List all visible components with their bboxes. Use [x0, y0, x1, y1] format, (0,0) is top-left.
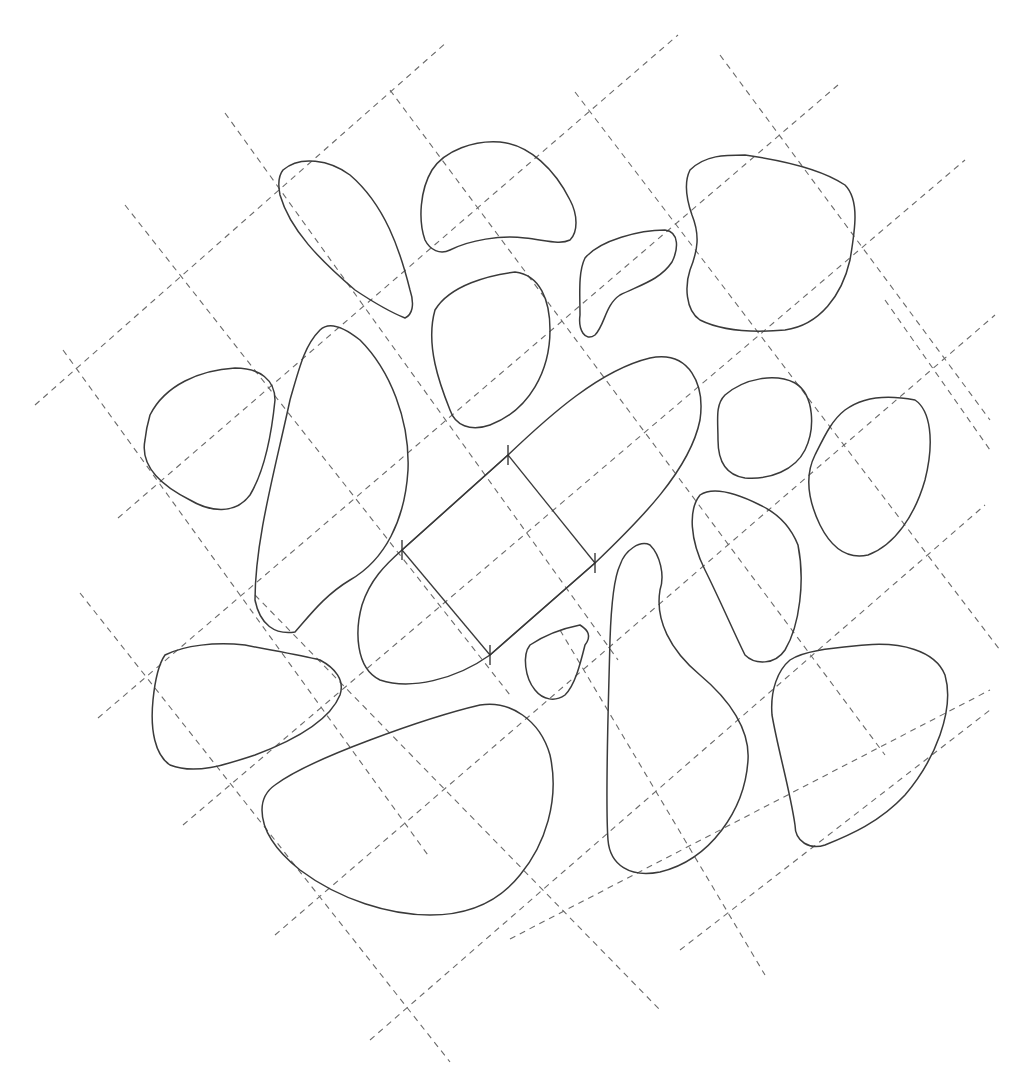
dashed-grid-diagonal-down — [63, 55, 1000, 1062]
grid-line — [510, 690, 990, 939]
dashed-grid-diagonal-up — [35, 35, 995, 1040]
grid-line — [98, 85, 838, 718]
grid-line — [370, 505, 985, 1040]
grid-line — [390, 90, 885, 755]
blob-bottom-right — [772, 644, 948, 846]
blob-small-circle — [718, 378, 812, 478]
outline-shapes — [144, 142, 947, 915]
grid-line — [255, 595, 660, 1010]
rectangle-edge — [402, 550, 490, 655]
blob-bottom-large — [262, 704, 553, 915]
grid-line — [720, 55, 990, 420]
blob-center-capsule — [358, 357, 701, 684]
blob-right-oval — [809, 397, 930, 556]
blob-top-left-leaf — [279, 161, 412, 318]
blob-tall-drop — [607, 544, 748, 874]
grid-line — [575, 92, 1000, 650]
blob-kidney — [580, 230, 677, 337]
grid-line — [118, 35, 678, 518]
grid-line — [225, 113, 618, 660]
diagram-canvas — [0, 0, 1035, 1077]
rectangle-edge — [508, 455, 595, 563]
grid-line — [885, 300, 990, 450]
blob-bottom-left — [152, 644, 341, 769]
grid-line — [680, 710, 990, 950]
blob-top-right — [686, 155, 855, 331]
grid-line — [183, 160, 965, 825]
center-rectangle-construction — [402, 445, 595, 665]
grid-line — [125, 205, 510, 695]
blob-right-middle — [692, 491, 801, 662]
blob-tall-left — [255, 325, 408, 632]
grid-line — [35, 42, 447, 405]
grid-line — [275, 315, 995, 935]
rectangle-edge — [490, 563, 595, 655]
rectangle-edge — [402, 455, 508, 550]
grid-line — [560, 630, 765, 975]
blob-upper-middle — [432, 272, 550, 428]
grid-line — [63, 350, 430, 858]
